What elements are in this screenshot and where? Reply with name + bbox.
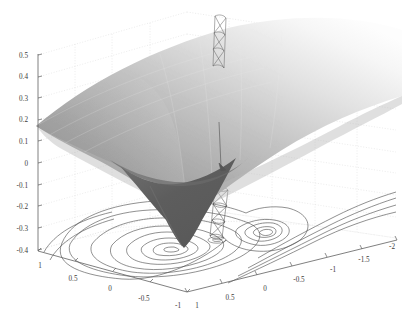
z-axis-ticks <box>38 54 42 250</box>
x-tick-label: -0.5 <box>293 276 305 284</box>
z-axis-labels: 0.5 0.4 0.3 0.2 0.1 0 -0.1 -0.2 -0.3 -0.… <box>17 52 29 255</box>
x-tick-label: -2 <box>389 243 395 251</box>
surface-plot-svg: 0.5 0.4 0.3 0.2 0.1 0 -0.1 -0.2 -0.3 -0.… <box>0 0 405 311</box>
figure-canvas: 0.5 0.4 0.3 0.2 0.1 0 -0.1 -0.2 -0.3 -0.… <box>0 0 405 311</box>
y-tick-label: 1 <box>38 262 42 270</box>
x-tick-label: 1 <box>195 302 199 310</box>
y-tick-label: -0.5 <box>138 295 150 303</box>
z-tick-label: 0.3 <box>19 95 28 103</box>
contour-plot <box>44 192 396 283</box>
z-tick-label: -0.1 <box>17 182 29 190</box>
y-tick-label: 0 <box>108 285 112 293</box>
x-tick-label: 0 <box>263 285 267 293</box>
x-tick-label: -1 <box>330 266 336 274</box>
x-tick-label: 0.5 <box>226 294 235 302</box>
z-tick-label: -0.3 <box>17 225 29 233</box>
z-tick-label: -0.4 <box>17 247 29 255</box>
z-tick-label: 0.1 <box>19 138 28 146</box>
z-tick-label: -0.2 <box>17 203 29 211</box>
y-tick-label: 0.5 <box>69 275 78 283</box>
x-axis-labels: 1 0.5 0 -0.5 -1 -1.5 -2 <box>195 243 395 310</box>
z-tick-label: 0.2 <box>19 116 28 124</box>
y-tick-label: -1 <box>175 302 181 310</box>
floor-grid <box>38 207 396 250</box>
x-tick-label: -1.5 <box>358 256 370 264</box>
z-tick-label: 0.4 <box>19 73 28 81</box>
z-tick-label: 0 <box>24 160 28 168</box>
x-axis-ticks <box>185 236 397 292</box>
z-tick-label: 0.5 <box>19 52 28 60</box>
